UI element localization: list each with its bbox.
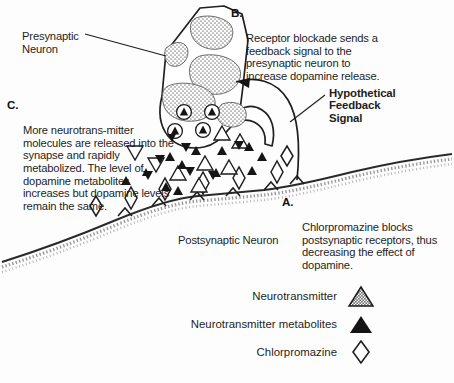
callout-c: C. More neurotrans-mitter molecules are … <box>7 99 177 225</box>
legend-label-neurotransmitter: Neurotransmitter <box>252 290 346 302</box>
callout-b: B. Receptor blockade sends a feedback si… <box>231 7 381 95</box>
label-presynaptic-neuron: Presynaptic Neuron <box>22 30 79 56</box>
label-postsynaptic-neuron: Postsynaptic Neuron <box>178 234 278 247</box>
open-diamond-icon <box>346 339 376 365</box>
legend: Neurotransmitter Neurotransmitter metabo… <box>128 282 376 366</box>
legend-item-metabolites: Neurotransmitter metabolites <box>128 310 376 338</box>
legend-item-neurotransmitter: Neurotransmitter <box>128 282 376 310</box>
callout-b-text: Receptor blockade sends a feedback signa… <box>246 32 381 82</box>
legend-item-chlorpromazine: Chlorpromazine <box>128 338 376 366</box>
solid-black-triangle-icon <box>346 311 376 337</box>
gray-stippled-triangle-icon <box>346 283 376 309</box>
legend-label-metabolites: Neurotransmitter metabolites <box>191 318 346 330</box>
callout-c-letter: C. <box>7 99 18 112</box>
callout-a-text: Chlorpromazine blocks postsynaptic recep… <box>302 221 450 271</box>
leader-line-presynaptic <box>85 34 166 56</box>
callout-b-letter: B. <box>231 7 242 20</box>
leader-line-feedback <box>290 95 325 122</box>
callout-a: A. Chlorpromazine blocks postsynaptic re… <box>282 196 450 284</box>
callout-c-text: More neurotrans-mitter molecules are rel… <box>23 124 177 212</box>
callout-a-letter: A. <box>282 196 293 209</box>
figure-canvas: Presynaptic Neuron Postsynaptic Neuron H… <box>0 0 454 383</box>
legend-label-chlorpromazine: Chlorpromazine <box>257 346 346 358</box>
